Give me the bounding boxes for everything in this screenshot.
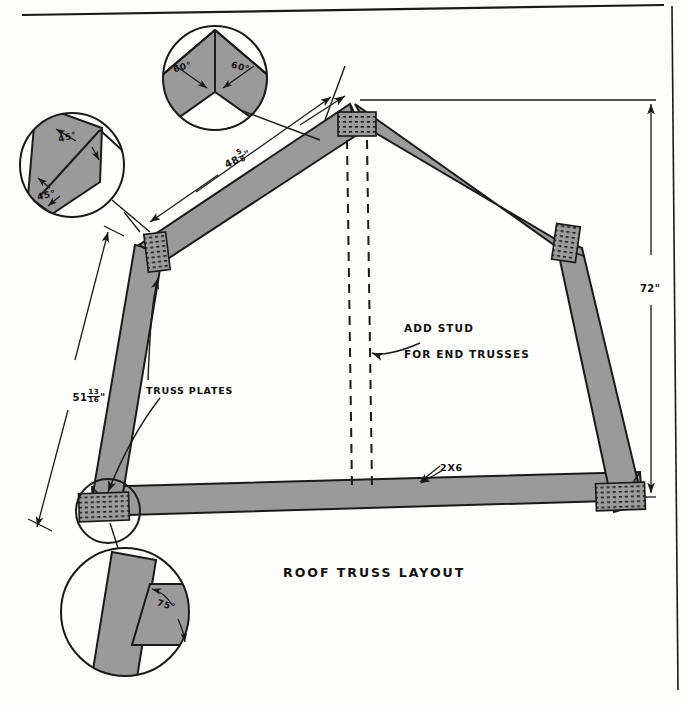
bottom-chord-member — [92, 472, 642, 516]
knee-detail-circle — [18, 111, 150, 232]
end-stud-dashed-lines — [347, 140, 372, 489]
dim-height-right-label: 72" — [640, 283, 660, 294]
plate-right-heel — [596, 482, 646, 511]
drawing-sheet: 60° 60° 45° 45° 75° 4858" 511316" 72" AD… — [0, 0, 683, 706]
right-rafter-member — [355, 104, 584, 256]
lumber-label: 2X6 — [440, 462, 463, 473]
joint-seams — [92, 104, 640, 517]
plate-right-knee — [552, 224, 581, 263]
truss-frame — [90, 104, 643, 517]
right-post-member — [555, 237, 643, 512]
drawing-title: ROOF TRUSS LAYOUT — [283, 565, 465, 580]
left-rafter-member — [139, 104, 363, 260]
plate-peak — [338, 112, 376, 136]
truss-plate-group — [78, 112, 645, 522]
dim-rafter-lower-den: 16 — [87, 397, 100, 404]
add-stud-line1: ADD STUD — [404, 322, 474, 334]
truss-drawing-canvas — [0, 0, 683, 706]
dim-rafter-lower-whole: 51 — [73, 392, 88, 403]
add-stud-note: ADD STUD FOR END TRUSSES — [385, 309, 530, 374]
add-stud-line2: FOR END TRUSSES — [404, 348, 530, 360]
dim-rafter-lower-unit: " — [100, 392, 106, 403]
plate-left-knee — [144, 232, 170, 272]
plate-left-heel — [78, 492, 129, 522]
truss-plates-label: TRUSS PLATES — [146, 385, 233, 396]
dim-rafter-lower-label: 511316" — [57, 378, 106, 415]
